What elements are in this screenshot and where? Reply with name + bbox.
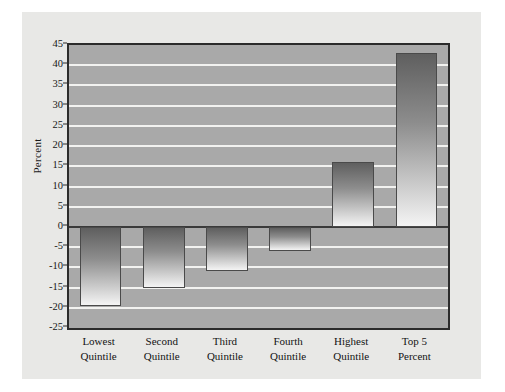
bar [332, 162, 374, 227]
x-axis-label: Top 5Percent [383, 334, 446, 364]
y-tick-label: 10 [53, 179, 64, 190]
x-axis-label-line1: Highest [334, 335, 368, 347]
x-axis-label: FourthQuintile [257, 334, 320, 364]
y-tick-label: -15 [49, 280, 63, 291]
y-tick-label: 20 [53, 139, 64, 150]
bar [143, 227, 185, 288]
y-tick-label: 45 [53, 38, 64, 49]
y-tick-label: 25 [53, 118, 64, 129]
x-axis-label-line2: Quintile [67, 349, 130, 364]
bar-series [69, 45, 448, 328]
y-tick-label: -25 [49, 321, 63, 332]
x-axis-category-labels: LowestQuintileSecondQuintileThirdQuintil… [67, 334, 450, 378]
y-axis-title: Percent [31, 111, 43, 201]
bar [206, 227, 248, 271]
x-axis-label-line2: Quintile [193, 349, 256, 364]
x-axis-label-line2: Quintile [320, 349, 383, 364]
x-axis-label-line1: Top 5 [402, 335, 427, 347]
x-axis-label: ThirdQuintile [193, 334, 256, 364]
bar [80, 227, 122, 306]
y-tick-label: 40 [53, 58, 64, 69]
x-axis-label-line1: Fourth [273, 335, 302, 347]
x-axis-label: SecondQuintile [130, 334, 193, 364]
x-axis-label-line2: Quintile [130, 349, 193, 364]
plot-area [67, 43, 450, 330]
bar [396, 53, 438, 227]
x-axis-label-line2: Quintile [257, 349, 320, 364]
x-axis-label-line1: Second [146, 335, 178, 347]
bar [269, 227, 311, 251]
y-tick-label: -20 [49, 300, 63, 311]
y-tick-label: -10 [49, 260, 63, 271]
y-tick-label: -5 [54, 240, 63, 251]
chart-figure: Percent 454035302520151050-5-10-15-20-25… [0, 0, 505, 392]
y-tick-label: 35 [53, 78, 64, 89]
y-tick-label: 30 [53, 98, 64, 109]
y-tick-label: 15 [53, 159, 64, 170]
x-axis-label: LowestQuintile [67, 334, 130, 364]
x-axis-label-line1: Third [213, 335, 237, 347]
x-axis-label-line1: Lowest [82, 335, 114, 347]
x-axis-label: HighestQuintile [320, 334, 383, 364]
x-axis-label-line2: Percent [383, 349, 446, 364]
